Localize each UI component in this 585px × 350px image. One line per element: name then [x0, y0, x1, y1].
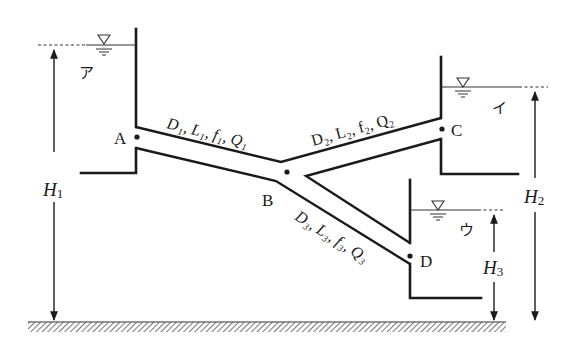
node-d-label: D: [420, 252, 432, 271]
node-b-dot: [284, 169, 289, 174]
three-reservoir-pipe-diagram: ア イ ウ: [0, 0, 585, 350]
node-b-label: B: [262, 191, 273, 210]
node-a-label: A: [114, 129, 127, 148]
reservoir-u: ウ: [410, 180, 505, 298]
dimension-h2: H2: [523, 92, 544, 320]
reservoir-i-label: イ: [492, 99, 507, 117]
reservoir-a: ア: [38, 29, 136, 173]
h3-label: H3: [482, 257, 503, 279]
h1-label: H1: [42, 179, 63, 201]
node-c-dot: [439, 126, 444, 131]
dimension-h3: H3: [482, 215, 503, 320]
reservoir-a-label: ア: [79, 64, 94, 82]
reservoir-i: イ: [441, 57, 548, 174]
dimension-h1: H1: [42, 50, 63, 320]
ground-datum: [28, 322, 506, 332]
h2-label: H2: [523, 186, 544, 208]
node-d-dot: [407, 253, 412, 258]
node-a-dot: [134, 134, 139, 139]
pipe-network: [136, 118, 441, 264]
pipe-1-label: D₁, L₁, f₁, Q₁: [164, 114, 250, 151]
reservoir-u-label: ウ: [459, 221, 474, 239]
node-c-label: C: [451, 121, 462, 140]
